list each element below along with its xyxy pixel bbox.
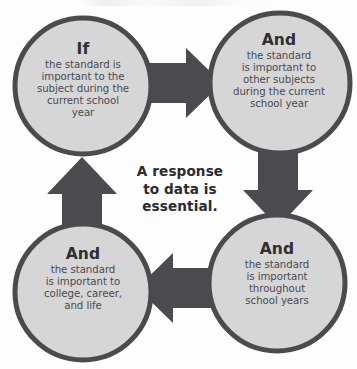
node-circle-bottom-right[interactable]	[209, 215, 345, 351]
node-circle-top-right[interactable]	[210, 13, 350, 153]
cycle-diagram: If the standard is important to the subj…	[0, 0, 357, 369]
node-circle-top-left[interactable]	[15, 18, 151, 154]
diagram-canvas	[0, 0, 357, 369]
node-circle-bottom-left[interactable]	[15, 224, 151, 360]
